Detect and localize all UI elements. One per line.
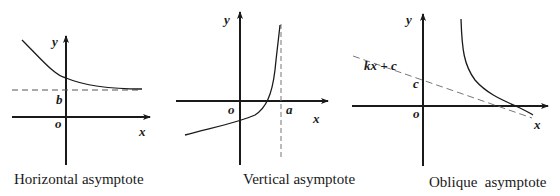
y-label: y — [404, 12, 412, 27]
x-label: x — [312, 111, 320, 126]
x-label: x — [138, 124, 146, 139]
y-label: y — [50, 34, 58, 49]
intercept-label-a: a — [286, 102, 293, 117]
caption-horizontal: Horizontal asymptote — [14, 171, 144, 187]
intercept-label-b: b — [56, 92, 63, 107]
y-label: y — [222, 12, 230, 27]
asymptote-diagrams: y x o b Horizontal asymptote y x o a Ver… — [0, 0, 560, 196]
panel-vertical: y x o a Vertical asymptote — [176, 12, 355, 187]
curve — [22, 40, 142, 89]
caption-vertical: Vertical asymptote — [243, 171, 355, 187]
panel-horizontal: y x o b Horizontal asymptote — [12, 34, 150, 187]
caption-oblique: Oblique asymptote — [429, 174, 547, 190]
curve — [185, 25, 280, 135]
x-label: x — [533, 117, 541, 132]
intercept-label-c: c — [413, 76, 419, 91]
origin-label: o — [55, 116, 62, 131]
curve — [461, 19, 533, 115]
panel-oblique: y x o c kx + c Oblique asymptote — [352, 12, 548, 190]
origin-label: o — [413, 106, 420, 121]
origin-label: o — [228, 102, 235, 117]
asymptote-equation-label: kx + c — [364, 58, 397, 73]
